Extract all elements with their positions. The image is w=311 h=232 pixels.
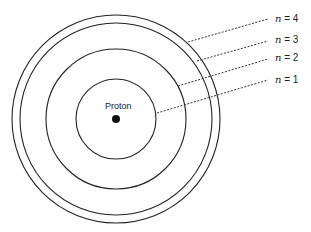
leader-line-n2: [178, 59, 268, 86]
proton-dot: [112, 115, 120, 123]
leader-line-n1: [157, 80, 268, 113]
bohr-diagram: Proton n = 4 n = 3 n = 2 n = 1: [0, 0, 311, 232]
label-n4-value: = 4: [281, 13, 298, 24]
label-n2-value: = 2: [281, 52, 298, 63]
diagram-canvas: [0, 0, 311, 232]
label-n1-value: = 1: [281, 74, 298, 85]
leader-line-n4: [188, 19, 268, 42]
label-n4: n = 4: [275, 14, 298, 24]
proton-label: Proton: [105, 102, 132, 111]
leader-line-n3: [197, 41, 268, 61]
label-n1: n = 1: [275, 75, 298, 85]
label-n3: n = 3: [275, 35, 298, 45]
label-n2: n = 2: [275, 53, 298, 63]
label-n3-value: = 3: [281, 34, 298, 45]
